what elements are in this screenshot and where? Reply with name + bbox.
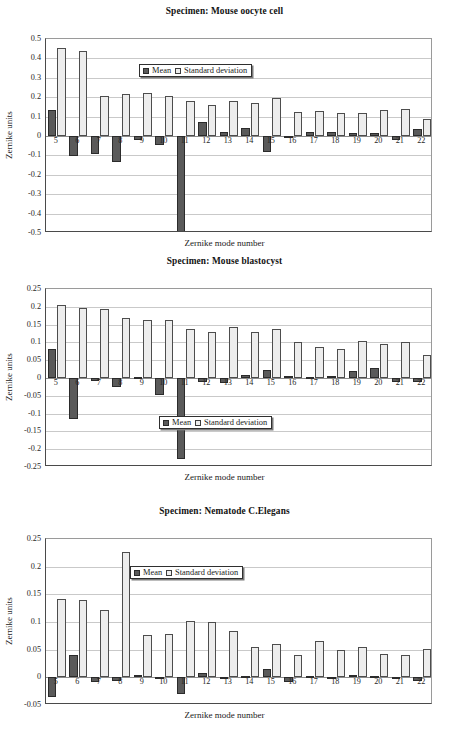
gridline [46, 78, 431, 79]
bar-standard-deviation [186, 621, 194, 677]
y-axis-tick: -0.2 [14, 444, 41, 453]
bar-standard-deviation [337, 650, 345, 678]
bar-mean [48, 110, 56, 136]
x-axis-tick: 19 [353, 136, 361, 145]
x-axis-tick: 20 [374, 136, 382, 145]
bar-standard-deviation [401, 655, 409, 678]
bar-standard-deviation [100, 309, 108, 378]
bar-standard-deviation [358, 113, 366, 136]
x-axis-tick: 12 [202, 378, 210, 387]
x-axis-tick: 6 [75, 677, 79, 686]
gridline [46, 307, 431, 308]
legend-label-standard-deviation: Standard deviation [175, 568, 238, 577]
chart-block-nematode-celegans: Specimen: Nematode C.Elegans Zernike uni… [0, 500, 449, 751]
x-axis-tick: 15 [267, 677, 275, 686]
y-axis-tick: -0.05 [14, 700, 41, 709]
x-axis-tick: 22 [417, 677, 425, 686]
bar-standard-deviation [122, 94, 130, 136]
y-axis-tick: 0.2 [14, 301, 41, 310]
bar-standard-deviation [186, 101, 194, 136]
legend-item-mean: Mean [163, 418, 191, 427]
y-axis-tick: -0.2 [14, 169, 41, 178]
x-axis-tick: 9 [140, 677, 144, 686]
x-axis-tick: 18 [331, 136, 339, 145]
x-axis-tick: 13 [224, 677, 232, 686]
chart-block-mouse-oocyte: Specimen: Mouse oocyte cell Zernike unit… [0, 0, 449, 250]
bar-standard-deviation [380, 654, 388, 677]
y-axis-tick: 0.4 [14, 53, 41, 62]
legend-swatch-sd-icon [166, 570, 172, 576]
x-axis-tick: 20 [374, 677, 382, 686]
x-axis-tick: 21 [396, 677, 404, 686]
bar-standard-deviation [294, 112, 302, 136]
x-axis-tick: 19 [353, 677, 361, 686]
legend-swatch-mean-icon [163, 420, 169, 426]
legend-item-standard-deviation: Standard deviation [195, 418, 267, 427]
bar-standard-deviation [143, 320, 151, 378]
x-axis-label: Zernike mode number [0, 238, 449, 248]
x-axis-tick: 12 [202, 677, 210, 686]
chart-title: Specimen: Mouse blastocyst [0, 250, 449, 266]
bar-standard-deviation [358, 341, 366, 378]
y-axis-label-text: Zernike units [4, 288, 14, 466]
x-axis-tick: 15 [267, 378, 275, 387]
y-axis-tick: -0.1 [14, 150, 41, 159]
y-axis-tick: 0.05 [14, 644, 41, 653]
x-axis-tick: 22 [417, 136, 425, 145]
x-axis-tick: 18 [331, 378, 339, 387]
legend-item-standard-deviation: Standard deviation [175, 66, 247, 75]
x-axis-tick: 12 [202, 136, 210, 145]
y-axis-tick: 0 [14, 672, 41, 681]
bar-standard-deviation [401, 109, 409, 136]
legend-item-mean: Mean [143, 66, 171, 75]
bar-mean [69, 655, 77, 678]
y-axis-tick: -0.15 [14, 426, 41, 435]
bar-standard-deviation [208, 622, 216, 677]
x-axis-tick: 6 [75, 378, 79, 387]
x-axis-tick: 10 [159, 136, 167, 145]
x-axis-tick: 9 [140, 136, 144, 145]
bar-standard-deviation [186, 329, 194, 378]
bar-standard-deviation [380, 344, 388, 378]
plot-area [45, 288, 432, 466]
y-axis-tick: 0.15 [14, 589, 41, 598]
gridline [46, 449, 431, 450]
y-axis-tick: 0.25 [14, 284, 41, 293]
bar-standard-deviation [57, 599, 65, 678]
legend-label-mean: Mean [143, 568, 162, 577]
bar-standard-deviation [208, 105, 216, 136]
x-axis-tick: 16 [288, 677, 296, 686]
x-axis-tick: 7 [97, 136, 101, 145]
bar-standard-deviation [122, 318, 130, 378]
gridline [46, 58, 431, 59]
x-axis-tick: 5 [54, 677, 58, 686]
legend-label-mean: Mean [152, 66, 171, 75]
x-axis-tick: 14 [245, 378, 253, 387]
bar-standard-deviation [100, 96, 108, 136]
bar-mean [48, 349, 56, 378]
bar-standard-deviation [79, 600, 87, 677]
y-axis-tick: 0.1 [14, 617, 41, 626]
legend-swatch-sd-icon [195, 420, 201, 426]
x-axis-tick: 17 [310, 677, 318, 686]
x-axis-label: Zernike mode number [0, 710, 449, 720]
bar-standard-deviation [208, 332, 216, 378]
bar-standard-deviation [57, 305, 65, 378]
bar-mean [263, 370, 271, 378]
x-axis-tick: 13 [224, 378, 232, 387]
bar-standard-deviation [229, 101, 237, 136]
bar-standard-deviation [79, 51, 87, 136]
x-axis-tick: 22 [417, 378, 425, 387]
bar-standard-deviation [315, 347, 323, 378]
legend-label-standard-deviation: Standard deviation [184, 66, 247, 75]
y-axis-label-text: Zernike units [4, 38, 14, 232]
x-axis-tick: 9 [140, 378, 144, 387]
gridline [46, 396, 431, 397]
y-axis-tick: -0.1 [14, 408, 41, 417]
x-axis-tick: 18 [331, 677, 339, 686]
x-axis-tick: 14 [245, 677, 253, 686]
chart-body: Zernike units0.250.20.150.10.050-0.05567… [0, 516, 449, 730]
bar-standard-deviation [272, 329, 280, 378]
legend-label-standard-deviation: Standard deviation [204, 418, 267, 427]
x-axis-tick: 8 [118, 378, 122, 387]
